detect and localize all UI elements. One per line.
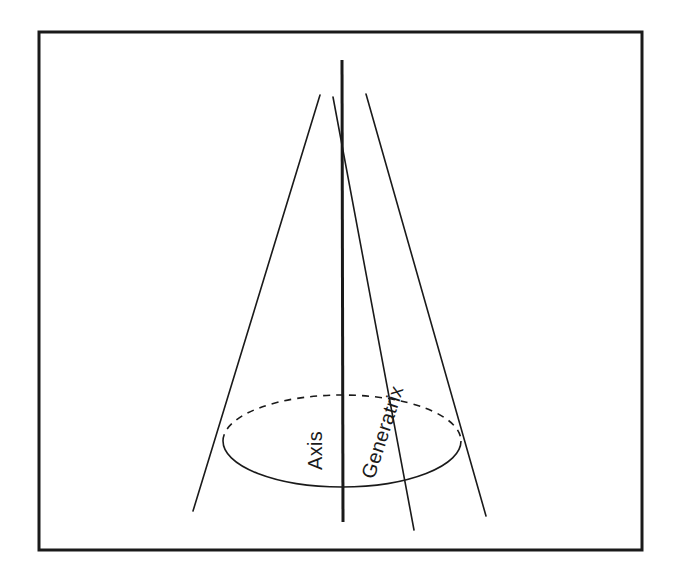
generatrix-label: Generatrix	[357, 383, 408, 481]
axis-label: Axis	[304, 431, 326, 470]
cone-diagram-canvas: Axis Generatrix	[0, 0, 676, 578]
cone-diagram-figure: Axis Generatrix	[0, 0, 676, 578]
left-generator-line	[193, 95, 320, 511]
axis-line	[342, 60, 343, 522]
figure-border	[39, 32, 642, 550]
